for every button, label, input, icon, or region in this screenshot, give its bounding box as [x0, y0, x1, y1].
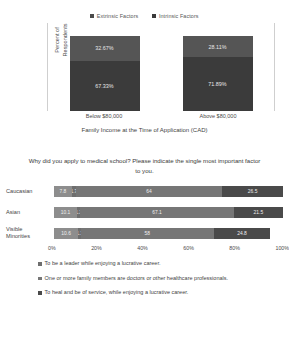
legend-item-leader: To be a leader while enjoying a lucrativ… — [38, 260, 267, 268]
bar-segment-4: 21.5 — [234, 207, 283, 218]
legend-swatch-icon — [38, 291, 42, 295]
bar-group-above-80000: 28.11% 71.89% — [176, 36, 260, 111]
bar-segment-extrinsic: 28.11% — [183, 36, 253, 57]
bar-segment-1: 7.8 — [54, 186, 72, 197]
row-label-visible-minorities: Visible Minorities — [6, 226, 54, 239]
legend-label-family-doctors: One or more family members are doctors o… — [45, 275, 228, 283]
bar-segment-intrinsic: 71.89% — [183, 57, 253, 111]
row-label-asian: Asian — [6, 209, 54, 216]
legend-item-heal-service: To heal and be of service, while enjoyin… — [38, 289, 267, 297]
stacked-bar: 28.11% 71.89% — [183, 36, 253, 111]
table-row: Asian 10.1 1.3 67.1 21.5 — [6, 205, 289, 219]
top-chart-plot-wrap: Percent of Respondents 32.67% 67.33% 28.… — [0, 23, 289, 123]
ethnicity-factor-chart: Caucasian 7.8 1.7 64 26.5 Asian 10.1 1.3… — [0, 184, 289, 251]
x-axis-tick-20: 20% — [91, 245, 102, 251]
stacked-bar-track: 10.1 1.3 67.1 21.5 — [54, 207, 283, 218]
x-axis-tick-label: Below $80,000 — [62, 113, 146, 119]
bottom-chart-legend: To be a leader while enjoying a lucrativ… — [0, 260, 289, 297]
x-axis-title: Family Income at the Time of Application… — [0, 127, 289, 133]
x-axis-tick-60: 60% — [183, 245, 194, 251]
x-axis-tick-labels: 0% 20% 40% 60% 80% 100% — [51, 245, 283, 251]
bar-segment-extrinsic: 32.67% — [70, 36, 140, 61]
x-axis-tick-40: 40% — [137, 245, 148, 251]
row-label-line1: Visible — [6, 226, 22, 232]
stacked-bar-track: 7.8 1.7 64 26.5 — [54, 186, 283, 197]
table-row: Caucasian 7.8 1.7 64 26.5 — [6, 184, 289, 198]
legend-item-intrinsic: Intrinsic Factors — [152, 13, 198, 19]
bar-segment-1: 10.1 — [54, 207, 77, 218]
bar-segment-3: 64 — [76, 186, 223, 197]
bar-group-below-80000: 32.67% 67.33% — [63, 36, 147, 111]
legend-item-extrinsic: Extrinsic Factors — [90, 13, 138, 19]
row-label-caucasian: Caucasian — [6, 188, 54, 195]
bar-segment-1: 10.6 — [54, 228, 78, 239]
legend-label-leader: To be a leader while enjoying a lucrativ… — [45, 260, 161, 268]
bar-segment-4: 26.5 — [222, 186, 283, 197]
x-axis-tick-0: 0% — [48, 245, 56, 251]
income-factor-chart: Extrinsic Factors Intrinsic Factors Perc… — [0, 0, 289, 152]
legend-swatch-icon — [152, 14, 156, 18]
legend-label-extrinsic: Extrinsic Factors — [97, 13, 139, 19]
legend-swatch-icon — [90, 14, 94, 18]
bar-segment-3: 58 — [81, 228, 214, 239]
row-label-line1: Asian — [6, 209, 20, 215]
axis-spacer — [6, 245, 51, 251]
stacked-bar-track: 10.6 1.1 58 24.8 — [54, 228, 283, 239]
stacked-bar: 32.67% 67.33% — [70, 36, 140, 111]
bottom-chart-axis: 0% 20% 40% 60% 80% 100% — [6, 245, 289, 251]
table-row: Visible Minorities 10.6 1.1 58 24.8 — [6, 226, 289, 240]
x-axis-category-labels: Below $80,000 Above $80,000 — [47, 113, 275, 119]
legend-label-heal-service: To heal and be of service, while enjoyin… — [45, 289, 189, 297]
row-label-line2: Minorities — [6, 233, 30, 239]
legend-label-intrinsic: Intrinsic Factors — [159, 13, 199, 19]
legend-item-family-doctors: One or more family members are doctors o… — [38, 275, 267, 283]
survey-question-text: Why did you apply to medical school? Ple… — [0, 156, 289, 175]
bar-segment-intrinsic: 67.33% — [70, 61, 140, 111]
bar-segment-3: 67.1 — [80, 207, 234, 218]
x-axis-tick-80: 80% — [229, 245, 240, 251]
top-chart-plot-area: 32.67% 67.33% 28.11% 71.89% — [47, 23, 275, 111]
bar-segment-4: 24.8 — [214, 228, 271, 239]
legend-swatch-icon — [38, 262, 42, 266]
row-label-line1: Caucasian — [6, 188, 32, 194]
x-axis-tick-label: Above $80,000 — [176, 113, 260, 119]
top-chart-legend: Extrinsic Factors Intrinsic Factors — [0, 0, 289, 19]
x-axis-tick-100: 100% — [275, 245, 289, 251]
legend-swatch-icon — [38, 277, 42, 281]
